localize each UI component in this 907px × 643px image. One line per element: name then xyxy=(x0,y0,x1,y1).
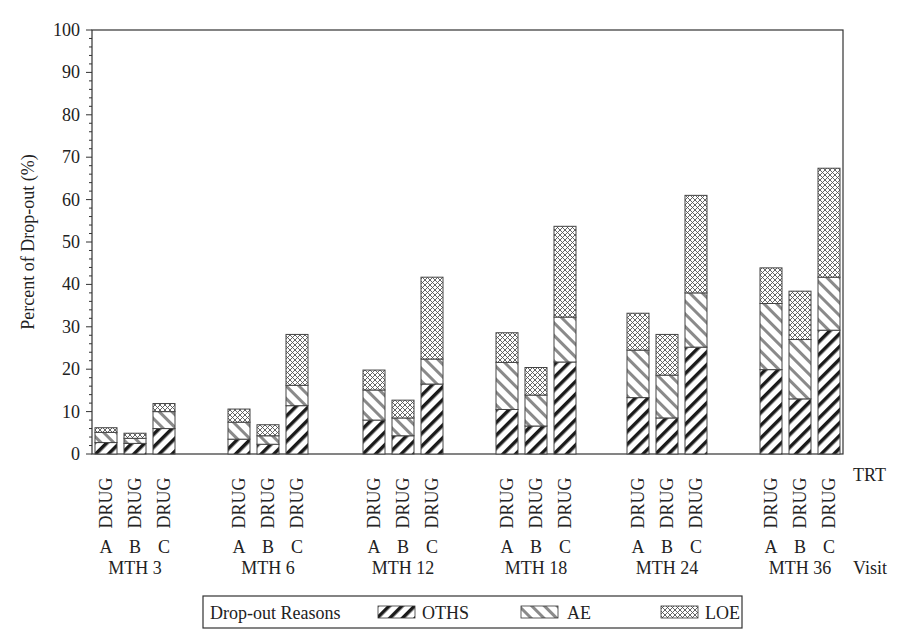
bar-segment-loe xyxy=(554,226,576,317)
trt-letter-label: B xyxy=(530,537,542,557)
bar-segment-loe xyxy=(525,368,547,396)
trt-letter-label: C xyxy=(426,537,438,557)
trt-letter-label: C xyxy=(690,537,702,557)
trt-letter-label: B xyxy=(397,537,409,557)
bar-segment-loe xyxy=(257,425,279,436)
visit-group-label: MTH 3 xyxy=(108,558,162,578)
bar-segment-ae xyxy=(656,375,678,418)
bar-segment-loe xyxy=(421,277,443,359)
trt-prefix-label: DRUG xyxy=(555,477,575,528)
y-axis: 0102030405060708090100 xyxy=(53,20,92,464)
bar-segment-oths xyxy=(685,347,707,454)
legend-swatch-oths xyxy=(378,606,415,618)
trt-prefix-label: DRUG xyxy=(761,477,781,528)
trt-prefix-label: DRUG xyxy=(819,477,839,528)
plot-frame xyxy=(92,30,843,454)
visit-label: Visit xyxy=(853,558,887,578)
trt-letter-label: C xyxy=(158,537,170,557)
bar-segment-ae xyxy=(286,385,308,405)
legend-label-oths: OTHS xyxy=(422,603,469,623)
y-tick-label: 60 xyxy=(62,190,80,210)
bar-segment-loe xyxy=(286,334,308,385)
bar-segment-loe xyxy=(685,195,707,293)
bar-segment-ae xyxy=(95,432,117,442)
trt-letter-label: C xyxy=(559,537,571,557)
bar-segment-oths xyxy=(525,426,547,454)
trt-letter-label: A xyxy=(632,537,645,557)
trt-prefix-label: DRUG xyxy=(686,477,706,528)
trt-prefix-label: DRUG xyxy=(364,477,384,528)
y-tick-label: 30 xyxy=(62,317,80,337)
trt-prefix-label: DRUG xyxy=(393,477,413,528)
bar-segment-loe xyxy=(760,268,782,304)
bar-segment-loe xyxy=(789,291,811,339)
trt-prefix-label: DRUG xyxy=(790,477,810,528)
bar-segment-ae xyxy=(153,412,175,429)
trt-prefix-label: DRUG xyxy=(497,477,517,528)
trt-letter-label: A xyxy=(100,537,113,557)
legend-swatch-loe xyxy=(661,606,698,618)
y-tick-label: 90 xyxy=(62,62,80,82)
trt-prefix-label: DRUG xyxy=(628,477,648,528)
y-tick-label: 10 xyxy=(62,402,80,422)
trt-prefix-label: DRUG xyxy=(526,477,546,528)
trt-prefix-label: DRUG xyxy=(96,477,116,528)
bar-segment-ae xyxy=(257,436,279,444)
bar-segment-oths xyxy=(656,418,678,454)
y-axis-title: Percent of Drop-out (%) xyxy=(18,154,39,329)
bar-segment-oths xyxy=(153,429,175,454)
bar-segment-ae xyxy=(789,340,811,399)
bar-segment-oths xyxy=(228,439,250,454)
bar-segment-ae xyxy=(818,277,840,330)
bar-segment-loe xyxy=(228,409,250,422)
bar-segment-ae xyxy=(228,422,250,439)
visit-group-label: MTH 18 xyxy=(505,558,568,578)
y-tick-label: 50 xyxy=(62,232,80,252)
bar-segment-oths xyxy=(421,384,443,454)
bar-segment-oths xyxy=(286,406,308,454)
bar-segment-oths xyxy=(124,443,146,454)
bar-segment-oths xyxy=(95,443,117,454)
y-tick-label: 80 xyxy=(62,105,80,125)
bar-segment-oths xyxy=(818,330,840,454)
y-tick-label: 100 xyxy=(53,20,80,40)
bar-segment-loe xyxy=(496,333,518,363)
trt-letter-label: B xyxy=(661,537,673,557)
y-tick-label: 20 xyxy=(62,359,80,379)
visit-group-label: MTH 36 xyxy=(769,558,832,578)
trt-letter-label: C xyxy=(291,537,303,557)
trt-letter-label: B xyxy=(794,537,806,557)
bar-segment-loe xyxy=(363,370,385,390)
trt-prefix-label: DRUG xyxy=(657,477,677,528)
trt-prefix-label: DRUG xyxy=(125,477,145,528)
stacked-bar-chart: 0102030405060708090100 DRUGADRUGBDRUGCMT… xyxy=(0,0,907,643)
bar-segment-oths xyxy=(627,398,649,454)
bar-segment-oths xyxy=(392,436,414,454)
bar-segment-ae xyxy=(525,395,547,426)
bar-segment-loe xyxy=(124,433,146,438)
trt-prefix-label: DRUG xyxy=(422,477,442,528)
bar-segment-ae xyxy=(496,362,518,409)
bar-segment-ae xyxy=(685,293,707,347)
trt-letter-label: A xyxy=(765,537,778,557)
bars xyxy=(95,168,840,454)
bar-segment-loe xyxy=(95,428,117,433)
bar-segment-loe xyxy=(153,404,175,412)
bar-segment-ae xyxy=(124,438,146,443)
bar-segment-oths xyxy=(789,399,811,454)
trt-label: TRT xyxy=(853,465,886,485)
bar-segment-ae xyxy=(760,303,782,369)
bar-segment-ae xyxy=(627,350,649,397)
legend-title: Drop-out Reasons xyxy=(210,603,340,623)
trt-letter-label: B xyxy=(262,537,274,557)
visit-group-label: MTH 6 xyxy=(241,558,295,578)
bar-segment-oths xyxy=(257,444,279,454)
bar-segment-loe xyxy=(656,334,678,375)
legend-label-ae: AE xyxy=(567,603,591,623)
legend-label-loe: LOE xyxy=(705,603,740,623)
trt-prefix-label: DRUG xyxy=(154,477,174,528)
trt-letter-label: A xyxy=(501,537,514,557)
bar-segment-ae xyxy=(392,418,414,436)
bar-segment-ae xyxy=(421,359,443,384)
bar-segment-ae xyxy=(554,317,576,362)
